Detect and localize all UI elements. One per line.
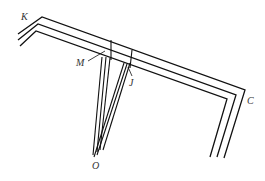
label-m: M: [75, 57, 85, 68]
inner-line: [20, 31, 227, 157]
label-j: J: [129, 77, 134, 88]
label-k: K: [20, 11, 29, 22]
leader-j: [128, 67, 132, 76]
label-c: C: [247, 95, 254, 106]
ray-j1: [94, 63, 124, 157]
diagram-canvas: K M J C O: [0, 0, 265, 181]
ray-j3: [103, 63, 130, 150]
label-o: O: [92, 160, 99, 171]
